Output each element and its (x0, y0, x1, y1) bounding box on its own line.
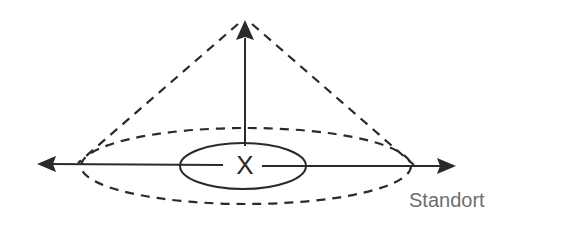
cone-edge-left (78, 24, 238, 163)
arrowhead-up-icon (236, 20, 254, 40)
center-marker: X (233, 150, 257, 180)
diagram-canvas: X Standort (0, 0, 563, 228)
horizontal-axis-left-segment (48, 164, 223, 165)
cone-edge-right (252, 24, 414, 165)
location-label: Standort (409, 189, 485, 211)
